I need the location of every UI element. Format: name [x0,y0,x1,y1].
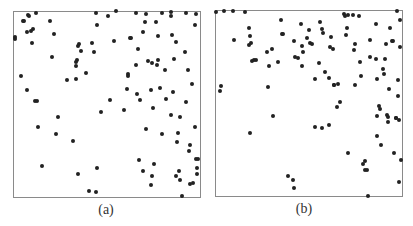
data-point [164,97,168,101]
data-point [175,140,179,144]
data-point [313,125,317,129]
data-point [300,44,304,48]
data-point [358,60,362,64]
data-point [19,74,23,78]
data-point [359,74,363,78]
data-point [382,72,386,76]
data-point [219,84,223,88]
data-point [335,105,339,109]
data-point [387,87,391,91]
data-point [160,11,164,15]
data-point [317,61,321,65]
data-point [247,26,251,30]
data-point [180,194,184,198]
data-point [169,113,173,117]
data-point [174,174,178,178]
data-point [90,41,94,45]
data-point [143,20,147,24]
data-point [248,34,252,38]
data-point [375,134,379,138]
data-point [327,76,331,80]
data-point [248,131,252,135]
data-point [151,106,155,110]
data-point [191,181,195,185]
data-point [150,61,154,65]
data-point [363,159,367,163]
data-point [254,58,258,62]
data-point [36,125,40,129]
data-point [384,42,388,46]
data-point [190,82,194,86]
data-point [170,33,174,37]
data-point [331,47,335,51]
data-point [286,174,290,178]
data-point [92,50,96,54]
data-point [292,39,296,43]
data-point [307,28,311,32]
data-point [193,125,197,129]
data-point [48,19,52,23]
data-point [154,20,158,24]
scatter-panel-a [13,11,201,198]
data-point [374,57,378,61]
data-point [184,11,188,15]
data-point [301,50,305,54]
data-point [231,9,235,13]
data-point [31,27,35,31]
data-point [141,30,145,34]
data-point [296,56,300,60]
data-point [338,100,342,104]
data-point [144,12,148,16]
data-point [222,9,226,13]
data-point [368,55,372,59]
data-point [79,49,83,53]
data-point [265,50,269,54]
data-point [353,83,357,87]
data-point [195,166,199,170]
data-point [178,115,182,119]
data-point [25,88,29,92]
data-point [150,174,154,178]
data-point [388,26,392,30]
data-point [346,151,350,155]
data-point [336,82,340,86]
data-point [398,18,402,22]
data-point [77,42,81,46]
data-point [299,22,303,26]
data-point [320,126,324,130]
data-point [329,35,333,39]
data-point [137,158,141,162]
caption-a: (a) [98,202,114,218]
data-point [71,139,75,143]
data-point [391,39,395,43]
data-point [397,180,401,184]
data-point [396,94,400,98]
data-point [392,151,396,155]
data-point [65,78,69,82]
data-point [366,194,370,198]
data-point [74,64,78,68]
data-point [271,114,275,118]
data-point [95,166,99,170]
data-point [126,74,130,78]
data-point [194,12,198,16]
data-point [386,120,390,124]
data-point [125,87,129,91]
data-point [396,78,400,82]
data-point [34,11,38,15]
data-point [158,86,162,90]
data-point [291,178,295,182]
data-point [112,39,116,43]
data-point [351,13,355,17]
data-point [50,55,54,59]
data-point [214,10,218,14]
data-point [305,36,309,40]
data-point [177,169,181,173]
data-point [188,143,192,147]
data-point [344,33,348,37]
data-point [171,90,175,94]
data-point [398,45,402,49]
data-point [292,186,296,190]
data-point [318,20,322,24]
data-point [267,64,271,68]
